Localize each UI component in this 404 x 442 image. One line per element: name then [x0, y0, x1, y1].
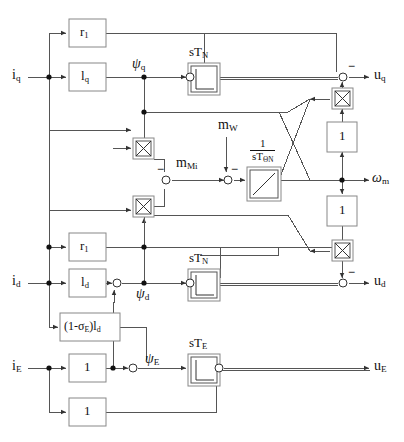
- junction-dot-psid: [141, 280, 146, 285]
- multiplier-uq[interactable]: [332, 88, 353, 109]
- sum-junction-mMi[interactable]: [162, 176, 170, 184]
- block-label-r1-q: r1: [80, 25, 89, 40]
- diagram-vector-layer: [0, 0, 404, 442]
- junction-dot-psid-rail: [141, 244, 146, 249]
- multiplier-q-top[interactable]: [133, 138, 154, 159]
- sum-junction-ud-tn[interactable]: [186, 279, 194, 287]
- output-label-wm: ωm: [372, 171, 389, 187]
- input-label-id: id: [12, 274, 21, 290]
- wire-id-to-sigma: [49, 283, 58, 327]
- wire-iq-to-r1: [49, 33, 66, 77]
- sum-junction-mW[interactable]: [224, 176, 232, 184]
- block-label-sTN-q: sTN: [189, 45, 208, 60]
- block-label-r1-d: r1: [80, 239, 89, 254]
- junction-dot-iq: [46, 74, 51, 79]
- output-label-ud: ud: [374, 274, 386, 290]
- integrator-denominator: sTΘN: [250, 151, 275, 164]
- input-label-iq: iq: [12, 68, 21, 84]
- junction-dot-psiq: [141, 74, 146, 79]
- sign-minus-mMi: −: [157, 163, 164, 175]
- wire-mult-lower-to-sum-mMi: [154, 189, 164, 206]
- multiplier-d-lower[interactable]: [133, 196, 154, 217]
- block-label-integrator: 1 sTΘN: [250, 138, 275, 164]
- signal-label-psi-d: ψd: [136, 287, 149, 303]
- signal-label-psi-E: ψE: [145, 352, 159, 368]
- sign-minus-ud: −: [348, 266, 355, 278]
- multiplier-group: [133, 88, 353, 261]
- block-label-one-iE-a: 1: [84, 360, 91, 373]
- wire-sigma-to-sum-psiE: [120, 327, 146, 360]
- block-label-one-upper: 1: [339, 129, 346, 142]
- wire-psiq-rail-diag: [288, 99, 310, 112]
- block-label-sTN-d: sTN: [189, 251, 208, 266]
- block-label-sigma-ld: (1-σE)ld: [64, 320, 101, 334]
- block-label-ld: ld: [81, 275, 89, 290]
- sum-junction-psid[interactable]: [113, 279, 121, 287]
- sum-junction-uq-tn[interactable]: [186, 73, 194, 81]
- input-label-iE: iE: [12, 359, 22, 375]
- block-diagram-canvas: iq id iE mW uq ωm ud uE r1 lq r1 ld (1-σ…: [0, 0, 404, 442]
- sum-junction-psiE[interactable]: [129, 364, 137, 372]
- signal-label-psi-q: ψq: [132, 57, 145, 73]
- wire-psid-rail: [144, 215, 310, 251]
- block-label-one-iE-b: 1: [84, 404, 91, 417]
- block-label-lq: lq: [81, 69, 89, 84]
- block-label-one-lower: 1: [339, 203, 346, 216]
- block-integrator[interactable]: [247, 167, 281, 201]
- junction-dot-iE: [46, 365, 51, 370]
- junction-dot-iE-gain: [110, 365, 115, 370]
- wire-iE-to-one-b: [49, 368, 66, 412]
- junction-dot-psiq-rail: [141, 109, 146, 114]
- sign-minus-uq: −: [348, 60, 355, 72]
- sum-junction-ud[interactable]: [339, 279, 347, 287]
- input-label-mW: mW: [218, 118, 238, 134]
- junction-dot-id-upper: [46, 244, 51, 249]
- multiplier-ud[interactable]: [332, 240, 353, 261]
- output-label-uE: uE: [374, 359, 387, 375]
- wire-psid-cross-to-mult-uq: [279, 99, 310, 180]
- sum-junction-uq[interactable]: [339, 73, 347, 81]
- sign-minus-mW: −: [231, 163, 238, 175]
- output-label-uq: uq: [374, 68, 386, 84]
- signal-label-m-Mi: mMi: [176, 156, 198, 172]
- block-label-sTE: sTE: [189, 336, 207, 351]
- wire-psid-left-rail: [200, 248, 278, 255]
- wire-iq-to-mult-lower: [49, 77, 131, 210]
- junction-dot-id: [46, 280, 51, 285]
- junction-dot-wm: [339, 177, 344, 182]
- sum-junction-uE[interactable]: [215, 364, 223, 372]
